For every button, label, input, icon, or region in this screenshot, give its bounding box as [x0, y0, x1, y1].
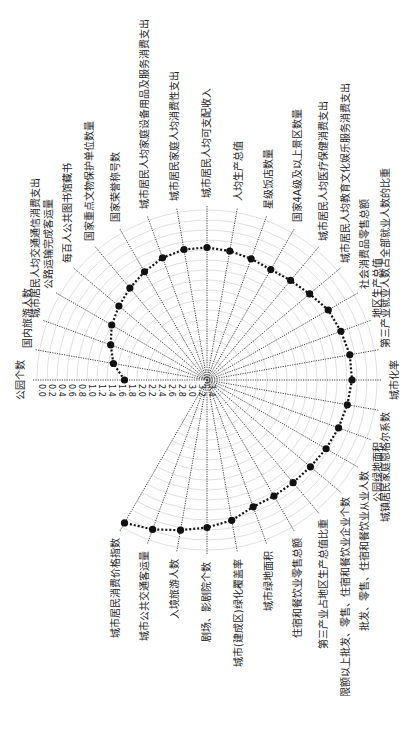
- data-point: [287, 277, 294, 284]
- axis-label: 城市居民人均交通通信消费支出: [29, 178, 41, 318]
- data-point: [121, 519, 128, 526]
- data-point: [203, 244, 210, 251]
- radial-tick-label: 0.0: [37, 384, 46, 397]
- axis-spoke: [74, 268, 207, 380]
- radial-tick-label: 1.0: [87, 384, 96, 397]
- data-point: [121, 376, 128, 383]
- axis-label: 公园个数: [14, 360, 26, 400]
- data-point: [346, 351, 353, 358]
- radial-tick-label: 0.8: [77, 384, 86, 397]
- axis-label: 第三产业就业人数占全部就业人数的比重: [379, 168, 391, 348]
- data-point: [322, 445, 329, 452]
- radial-tick-label: 1.6: [117, 384, 126, 397]
- radar-chart: 0.00.20.40.60.81.01.21.41.61.82.02.22.42…: [0, 0, 407, 746]
- axis-label: 国家重点文物保护单位数量: [83, 121, 95, 241]
- axis-label: 剧场、影剧院个数: [200, 562, 212, 642]
- axis-label: 公园绿地面积: [371, 442, 383, 502]
- axis-spoke: [207, 380, 340, 492]
- axis-label: 城市居民消费价格指数: [109, 538, 121, 638]
- axis-spoke: [147, 380, 207, 544]
- axis-label: 每百人公共图书馆藏书: [61, 163, 73, 263]
- axis-label: 国家4A级及以上景区数量: [291, 109, 303, 222]
- axis-label: 城市绿地面积: [262, 551, 274, 611]
- data-point: [228, 517, 235, 524]
- data-point: [107, 341, 114, 348]
- radial-tick-label: 2.2: [147, 384, 156, 397]
- radial-tick-label: 2.0: [137, 384, 146, 397]
- data-point: [267, 266, 274, 273]
- axis-label: 社会消费品零售总额: [358, 199, 370, 289]
- radial-tick-label: 3.4: [207, 384, 216, 397]
- axis-spoke: [120, 380, 207, 531]
- axis-label: 城市居民人均可支配收入: [200, 88, 212, 198]
- axis-label: 星级饭店数量: [262, 149, 274, 209]
- data-point: [248, 255, 255, 262]
- radial-tick-label: 3.2: [197, 384, 206, 397]
- axis-label: 住宿和餐饮业零售总额: [291, 538, 303, 638]
- data-point: [226, 247, 233, 254]
- data-point: [108, 321, 115, 328]
- data-point: [180, 246, 187, 253]
- radial-tick-label: 0.6: [67, 384, 76, 397]
- data-point: [126, 284, 133, 291]
- data-point: [290, 479, 297, 486]
- radial-tick-label: 3.0: [187, 384, 196, 397]
- axis-label: 城市公共交通客运量: [138, 551, 150, 641]
- radial-tick-label: 2.8: [177, 384, 186, 397]
- axis-spoke: [207, 380, 358, 467]
- axis-label: 城市居民人均家庭设备用品及服务消费支出: [138, 19, 150, 209]
- data-point: [110, 360, 117, 367]
- data-point: [250, 503, 257, 510]
- axis-label: 限额以上批发、零售、住宿和餐饮业企业个数: [339, 497, 351, 697]
- axis-label: 公路运输完成客运量: [42, 199, 54, 289]
- data-point: [203, 524, 210, 531]
- data-point: [344, 401, 351, 408]
- data-point: [115, 302, 122, 309]
- axis-label: 城市居民人均教育文化娱乐服务消费支出: [339, 83, 351, 263]
- axis-label: 第三产业占地区生产总值比重: [317, 519, 329, 649]
- axis-label: 人均生产总值: [232, 141, 244, 201]
- axis-spoke: [207, 268, 340, 380]
- data-point: [149, 526, 156, 533]
- axis-label: 城市居民人均医疗保健消费支出: [317, 101, 329, 241]
- data-point: [177, 527, 184, 534]
- axis-label: 国家荣誉称号数: [109, 152, 121, 222]
- axis-label: 城市(建成区)绿化覆盖率: [232, 559, 244, 667]
- data-point: [348, 376, 355, 383]
- data-point: [307, 463, 314, 470]
- data-point: [141, 268, 148, 275]
- axis-spokes: [33, 206, 381, 554]
- radial-tick-label: 1.2: [97, 384, 106, 397]
- radial-tick-label: 0.2: [47, 384, 56, 397]
- data-point: [270, 492, 277, 499]
- axis-label: 批发、零售、住宿和餐饮业从业人数: [358, 471, 370, 631]
- axis-spoke: [56, 293, 207, 380]
- axis-spoke: [207, 380, 319, 513]
- axis-spoke: [207, 293, 358, 380]
- radial-tick-label: 2.6: [167, 384, 176, 397]
- data-point: [159, 254, 166, 261]
- data-point: [335, 424, 342, 431]
- data-point: [306, 290, 313, 297]
- axis-spoke: [207, 247, 319, 380]
- radial-tick-label: 0.4: [57, 384, 66, 397]
- axis-spoke: [120, 229, 207, 380]
- axis-spoke: [207, 229, 294, 380]
- radial-tick-label: 1.4: [107, 384, 116, 397]
- radial-tick-label: 2.4: [157, 384, 166, 397]
- axis-spoke: [95, 247, 207, 380]
- data-point: [325, 306, 332, 313]
- radial-tick-label: 1.8: [127, 384, 136, 397]
- axis-label: 城市居民家庭人均消费性支出: [168, 71, 180, 201]
- axis-label: 入境旅游人数: [168, 559, 180, 619]
- radial-tick-labels: 0.00.20.40.60.81.01.21.41.61.82.02.22.42…: [37, 384, 216, 397]
- data-point: [337, 328, 344, 335]
- axis-label: 城市化率: [388, 360, 400, 400]
